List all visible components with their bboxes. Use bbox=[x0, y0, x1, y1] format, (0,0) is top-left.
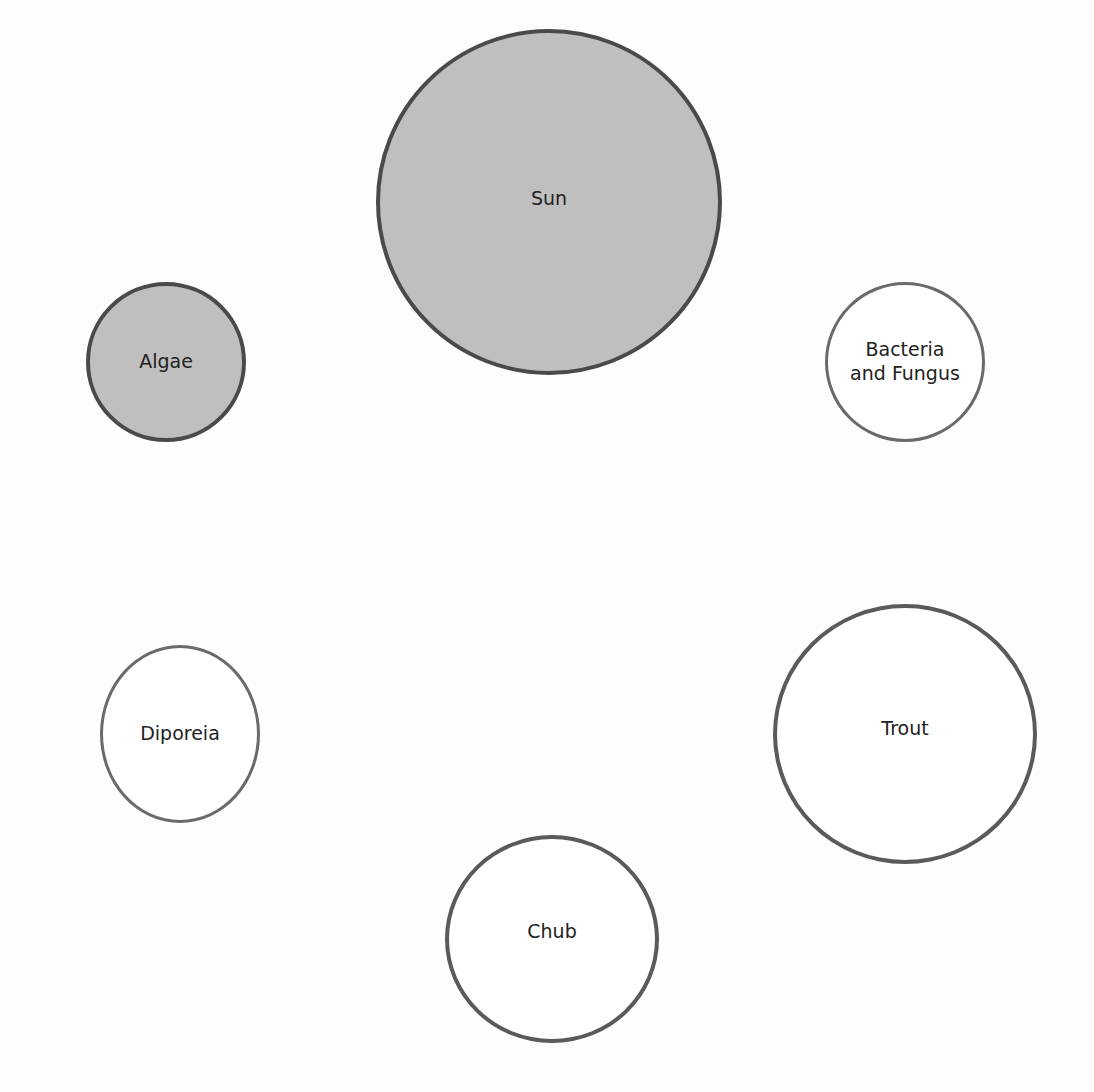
node-trout: Trout bbox=[773, 604, 1037, 864]
node-diporeia: Diporeia bbox=[100, 645, 260, 823]
node-sun: Sun bbox=[376, 29, 722, 375]
node-label-chub: Chub bbox=[527, 920, 576, 944]
node-bacteria-fungus: Bacteria and Fungus bbox=[825, 282, 985, 442]
node-label-algae: Algae bbox=[139, 350, 193, 374]
node-algae: Algae bbox=[86, 282, 246, 442]
node-chub: Chub bbox=[445, 835, 659, 1043]
node-label-trout: Trout bbox=[881, 717, 928, 741]
node-label-sun: Sun bbox=[531, 187, 567, 211]
diagram-canvas: Sun Algae Bacteria and Fungus Diporeia T… bbox=[0, 0, 1094, 1092]
node-label-bacteria-fungus: Bacteria and Fungus bbox=[850, 338, 960, 386]
node-label-diporeia: Diporeia bbox=[140, 722, 220, 746]
